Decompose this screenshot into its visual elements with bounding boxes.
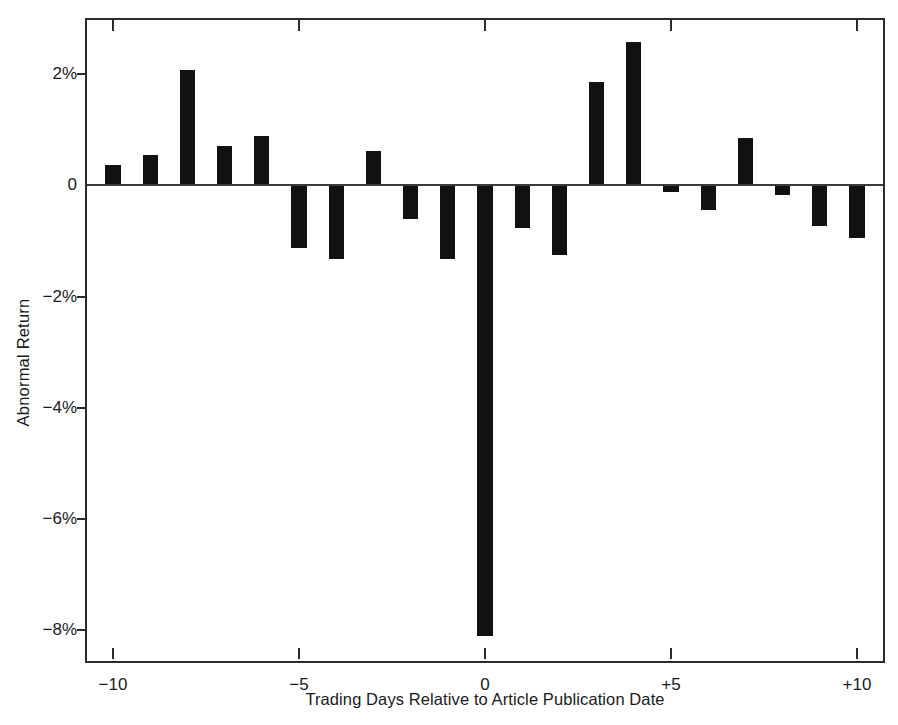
top-frame-tick [298, 20, 300, 31]
bar [180, 70, 195, 186]
bar [849, 185, 864, 238]
bar [775, 185, 790, 194]
bar [477, 185, 492, 636]
top-frame-tick [856, 20, 858, 31]
bar [403, 185, 418, 218]
bar-series [87, 20, 883, 661]
plot-area: 2%0−2%−4%−6%−8% −10−50+5+10 [85, 18, 885, 663]
y-tick-mark [77, 296, 87, 298]
bar [440, 185, 455, 259]
bar [626, 42, 641, 186]
bar [329, 185, 344, 259]
bar [738, 138, 753, 185]
y-axis-title-label: Abnormal Return [14, 299, 33, 427]
top-frame-tick [484, 20, 486, 31]
bar [254, 136, 269, 186]
bar [663, 185, 678, 192]
chart-figure: Abnormal Return 2%0−2%−4%−6%−8% −10−50+5… [0, 0, 898, 725]
bar [589, 82, 604, 185]
bar [291, 185, 306, 248]
bar [143, 155, 158, 186]
y-tick-mark [77, 73, 87, 75]
x-tick-mark [670, 648, 672, 659]
top-frame-tick [112, 20, 114, 31]
y-tick-label: −8% [43, 620, 78, 640]
top-frame-tick [670, 20, 672, 31]
y-tick-label: −2% [43, 287, 78, 307]
y-tick-label: −4% [43, 398, 78, 418]
x-tick-mark [484, 648, 486, 659]
bar [515, 185, 530, 228]
y-tick-mark [77, 629, 87, 631]
x-tick-mark [856, 648, 858, 659]
x-tick-mark [112, 648, 114, 659]
bar [217, 146, 232, 185]
y-tick-mark [77, 407, 87, 409]
zero-baseline [87, 184, 883, 186]
x-tick-mark [298, 648, 300, 659]
bar [812, 185, 827, 226]
x-axis-title: Trading Days Relative to Article Publica… [85, 690, 885, 709]
bar [105, 165, 120, 186]
bar [366, 151, 381, 185]
y-tick-label: 0 [68, 175, 77, 195]
bar [701, 185, 716, 209]
y-tick-label: 2% [52, 64, 77, 84]
y-axis-title: Abnormal Return [8, 0, 38, 725]
bar [552, 185, 567, 255]
y-tick-mark [77, 518, 87, 520]
y-tick-label: −6% [43, 509, 78, 529]
